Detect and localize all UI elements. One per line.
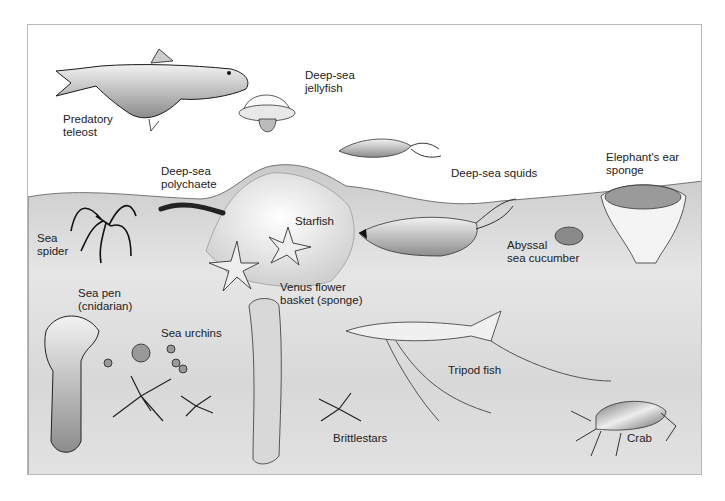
deep-sea-scene xyxy=(28,25,702,475)
label-sea-pen: Sea pen (cnidarian) xyxy=(78,287,132,313)
illustration-frame: Predatory teleost Deep-sea jellyfish Dee… xyxy=(27,24,702,475)
label-predatory-teleost: Predatory teleost xyxy=(63,113,113,139)
jellyfish-drawing xyxy=(239,95,295,132)
label-elephants-ear-sponge: Elephant's ear sponge xyxy=(606,151,679,177)
label-brittlestars: Brittlestars xyxy=(333,432,387,445)
label-venus-flower-basket: Venus flower basket (sponge) xyxy=(280,281,362,307)
small-squid-drawing xyxy=(339,139,441,157)
label-deep-sea-jellyfish: Deep-sea jellyfish xyxy=(305,69,355,95)
label-deep-sea-squids: Deep-sea squids xyxy=(451,167,537,180)
label-abyssal-sea-cucumber: Abyssal sea cucumber xyxy=(507,239,579,265)
label-sea-spider: Sea spider xyxy=(37,232,68,258)
label-tripod-fish: Tripod fish xyxy=(448,364,501,377)
label-starfish: Starfish xyxy=(295,215,334,228)
venus-flower-basket-drawing xyxy=(249,299,281,464)
label-deep-sea-polychaete: Deep-sea polychaete xyxy=(161,165,217,191)
label-sea-urchins: Sea urchins xyxy=(161,327,222,340)
label-crab: Crab xyxy=(627,432,652,445)
